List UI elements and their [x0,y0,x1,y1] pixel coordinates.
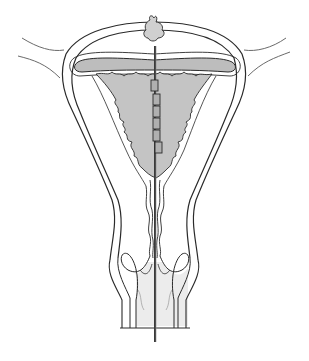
device-segment-5 [153,130,160,141]
device-segment-6 [155,142,162,153]
left-tube-lower [18,56,60,78]
left-tube-upper [22,38,64,51]
device-segment-4 [153,118,160,129]
right-tube-lower [248,52,290,76]
device-segment-3 [153,106,160,117]
device-segment-1 [151,80,158,91]
device-tip-tuft [144,16,164,41]
device-segment-2 [153,94,160,105]
vagina-left-inner [118,258,130,328]
vagina-left-outer [109,260,122,328]
right-tube-upper [244,38,286,51]
uterus-illustration [0,0,309,361]
uterus-diagram [0,0,309,361]
